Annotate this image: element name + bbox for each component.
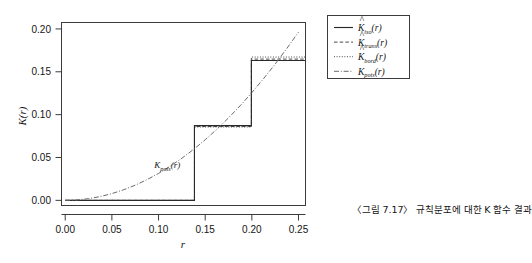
figure-caption: 〈그림 7.17〉 규칙분포에 대한 K 함수 결과: [352, 202, 532, 216]
y-tick-marks: [56, 29, 62, 200]
x-tick-label: 0.20: [242, 224, 262, 235]
series-k-bord: [65, 57, 305, 200]
y-axis: 0.000.050.100.150.20 K(r): [16, 23, 62, 206]
x-tick-marks: [65, 215, 298, 221]
x-tick-label: 0.25: [289, 224, 309, 235]
annotation-k-pois: Kpois(r): [153, 160, 180, 172]
y-axis-title: K(r): [16, 106, 29, 126]
x-tick-label: 0.10: [149, 224, 169, 235]
x-axis: 0.000.050.100.150.200.25 r: [55, 215, 308, 251]
y-tick-label: 0.20: [32, 24, 52, 35]
x-tick-label: 0.05: [102, 224, 122, 235]
y-tick-labels: 0.000.050.100.150.20: [32, 24, 52, 206]
plot-annotations: Kpois(r): [153, 160, 180, 172]
x-tick-labels: 0.000.050.100.150.200.25: [55, 224, 308, 235]
y-tick-label: 0.05: [32, 152, 52, 163]
legend: ^Kiso(r)^Ktrans(r)^Kbord(r)Kpois(r): [328, 15, 410, 79]
annotation-label: Kpois(r): [153, 160, 180, 172]
series-k-trans: [65, 59, 305, 200]
series-k-iso: [65, 60, 305, 200]
y-tick-label: 0.00: [32, 195, 52, 206]
y-tick-label: 0.15: [32, 66, 52, 77]
y-tick-label: 0.10: [32, 109, 52, 120]
x-tick-label: 0.15: [195, 224, 215, 235]
x-axis-title: r: [181, 238, 186, 250]
plot-series-area: [65, 32, 305, 200]
plot-frame: [62, 23, 306, 206]
x-tick-label: 0.00: [55, 224, 75, 235]
